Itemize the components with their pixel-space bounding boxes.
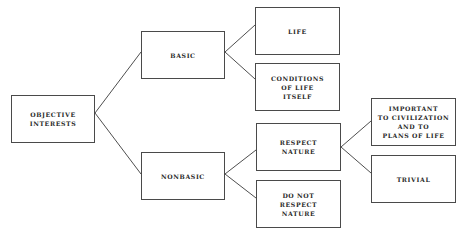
edge-basic-life (225, 25, 255, 52)
edge-objective-basic (95, 52, 141, 113)
node-basic: BASIC (141, 31, 225, 79)
edge-nonbasic-donot (225, 174, 256, 198)
edge-objective-nonbasic (95, 113, 141, 174)
node-life: LIFE (255, 7, 340, 55)
node-conditions-of-life-itself: CONDITIONS OF LIFE ITSELF (255, 63, 340, 111)
edge-respect-important (341, 121, 371, 147)
edge-respect-trivial (341, 147, 371, 173)
edge-nonbasic-respect (225, 150, 256, 174)
edge-basic-conditions (225, 52, 255, 79)
node-respect-nature: RESPECT NATURE (256, 123, 341, 171)
node-important-to-civilization: IMPORTANT TO CIVILIZATION AND TO PLANS O… (371, 98, 456, 146)
node-nonbasic: NONBASIC (141, 152, 225, 200)
node-objective-interests: OBJECTIVE INTERESTS (11, 95, 95, 143)
node-do-not-respect-nature: DO NOT RESPECT NATURE (256, 180, 341, 228)
node-trivial: TRIVIAL (371, 155, 456, 203)
